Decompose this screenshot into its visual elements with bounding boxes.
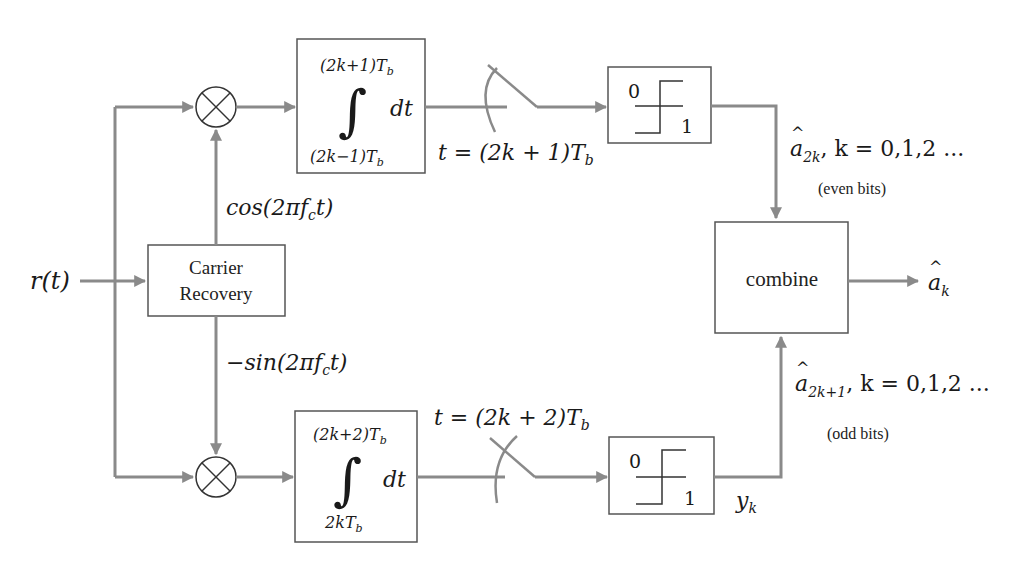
top-sample-time: t = (2k + 1)Tb <box>438 140 594 168</box>
svg-text:(odd bits): (odd bits) <box>827 425 889 443</box>
bottom-decision-low: 0 <box>629 450 641 472</box>
carrier-recovery-block: Carrier Recovery <box>148 245 285 316</box>
svg-text:a2k, k = 0,1,2 ...: a2k, k = 0,1,2 ... <box>790 136 964 165</box>
decision-output-yk: yk <box>735 488 757 516</box>
top-multiplier-icon <box>196 87 236 127</box>
hat-icon: ^ <box>796 359 809 378</box>
svg-text:a2k+1, k = 0,1,2 ...: a2k+1, k = 0,1,2 ... <box>795 371 990 400</box>
final-output-label: ak ^ <box>928 258 950 299</box>
input-label: r(t) <box>30 267 70 295</box>
top-decision-low: 0 <box>628 80 640 102</box>
top-decision-high: 1 <box>681 115 693 137</box>
top-sampler-switch-icon <box>485 65 537 132</box>
integral-icon: ∫ <box>338 78 367 143</box>
top-integrator-dt: dt <box>390 96 413 121</box>
hat-icon: ^ <box>929 258 942 277</box>
carrier-recovery-line2: Recovery <box>180 283 253 304</box>
odd-bits-label: a2k+1, k = 0,1,2 ... ^ (odd bits) <box>795 359 990 443</box>
bottom-decision-to-combine <box>714 337 781 477</box>
hat-icon: ^ <box>791 124 804 143</box>
top-threshold-decision-block: 0 1 <box>608 67 711 143</box>
bottom-threshold-decision-block: 0 1 <box>609 437 714 514</box>
sin-carrier-label: −sin(2πfct) <box>226 350 347 378</box>
top-integrator-lower-limit: (2k−1)Tb <box>310 147 384 169</box>
top-decision-to-combine <box>711 106 776 218</box>
bottom-integrator-dt: dt <box>383 467 406 492</box>
even-bits-label: a2k, k = 0,1,2 ... ^ (even bits) <box>790 124 964 198</box>
integral-icon: ∫ <box>333 447 362 512</box>
cos-carrier-label: cos(2πfct) <box>226 195 333 223</box>
bottom-sampler-switch-icon <box>490 436 535 503</box>
bottom-decision-high: 1 <box>684 487 696 509</box>
bottom-multiplier-icon <box>196 457 236 497</box>
top-integrator-block: (2k+1)Tb ∫ dt (2k−1)Tb <box>297 39 425 173</box>
bottom-sample-time: t = (2k + 2)Tb <box>434 405 590 433</box>
top-integrator-upper-limit: (2k+1)Tb <box>320 56 394 78</box>
combine-block: combine <box>715 222 848 333</box>
bottom-integrator-block: (2k+2)Tb ∫ dt 2kTb <box>295 411 417 542</box>
demodulator-diagram: r(t) Carrier Recovery cos(2πfct) −sin(2π… <box>0 0 1035 567</box>
svg-text:(even bits): (even bits) <box>818 180 886 198</box>
carrier-recovery-line1: Carrier <box>189 257 243 278</box>
bottom-integrator-upper-limit: (2k+2)Tb <box>313 425 387 447</box>
combine-label: combine <box>746 267 818 291</box>
